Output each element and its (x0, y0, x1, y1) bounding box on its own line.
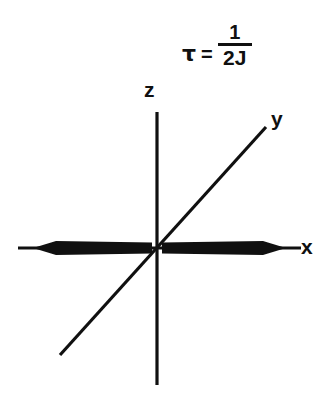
y-axis-line (60, 127, 266, 355)
x-axis-label: x (301, 236, 313, 257)
tau-formula: τ = 1 2J (182, 22, 252, 68)
z-axis-label: z (144, 79, 155, 100)
fraction-denominator: 2J (220, 46, 249, 68)
spin-echo-axis-figure: z y x τ = 1 2J (0, 0, 330, 417)
fraction-numerator: 1 (224, 22, 245, 43)
x-axis-left-arrow (33, 241, 152, 255)
y-axis-label: y (271, 108, 283, 129)
coordinate-axes-diagram (0, 0, 330, 417)
x-axis-right-arrow (162, 241, 286, 255)
tau-symbol: τ (182, 43, 196, 65)
fraction: 1 2J (218, 22, 252, 68)
equals-sign: = (201, 44, 213, 64)
